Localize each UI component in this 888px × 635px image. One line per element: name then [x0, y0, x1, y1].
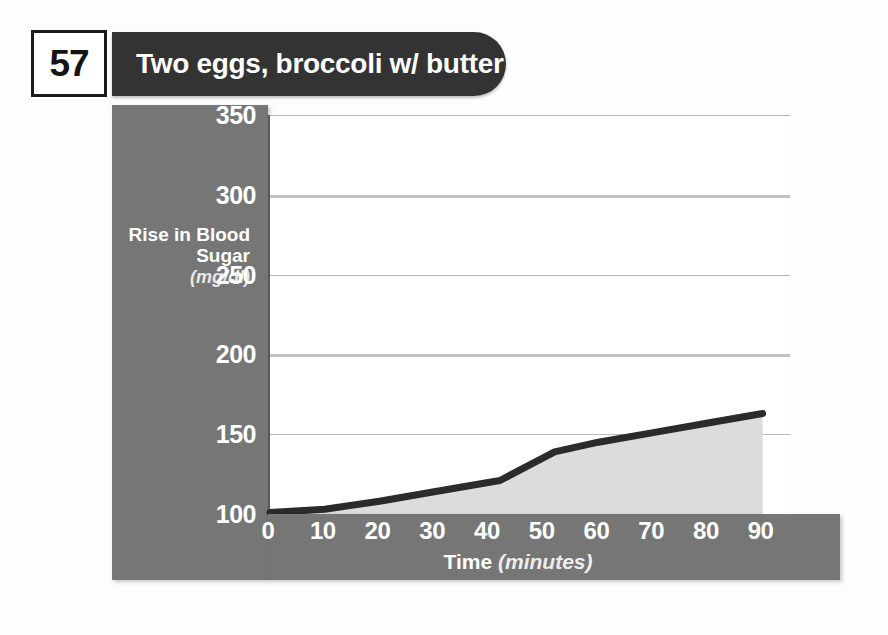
x-tick-label: 0 [262, 517, 275, 545]
x-tick-label: 10 [310, 517, 336, 545]
x-axis-title: Time (minutes) [268, 550, 768, 574]
chart-page: 57 Two eggs, broccoli w/ butter Rise in … [0, 0, 888, 635]
x-tick-label: 80 [693, 517, 719, 545]
x-tick-label: 90 [748, 517, 774, 545]
chart-header: 57 Two eggs, broccoli w/ butter [0, 0, 888, 105]
page-number-text: 57 [49, 45, 88, 82]
x-tick-label: 40 [474, 517, 500, 545]
plot-area [268, 115, 790, 514]
x-tick-label: 60 [584, 517, 610, 545]
title-banner: Two eggs, broccoli w/ butter [112, 32, 506, 96]
data-series-svg [270, 115, 790, 514]
y-tick-label: 250 [136, 260, 256, 289]
y-axis-panel: Rise in Blood Sugar (mg/dl) 100150200250… [112, 105, 268, 580]
x-axis-panel: 0102030405060708090 Time (minutes) [268, 514, 840, 580]
y-tick-label: 300 [136, 180, 256, 209]
x-axis-title-text: Time [444, 550, 493, 573]
x-axis-units: (minutes) [498, 550, 593, 573]
y-tick-label: 100 [136, 500, 256, 529]
x-tick-label: 50 [529, 517, 555, 545]
y-tick-label: 200 [136, 340, 256, 369]
x-tick-label: 20 [365, 517, 391, 545]
page-number-box: 57 [31, 30, 107, 97]
y-tick-label: 150 [136, 420, 256, 449]
x-tick-label: 30 [419, 517, 445, 545]
x-tick-label: 70 [638, 517, 664, 545]
y-tick-label: 350 [136, 101, 256, 130]
chart-container: Rise in Blood Sugar (mg/dl) 100150200250… [112, 105, 842, 585]
page-title: Two eggs, broccoli w/ butter [112, 48, 504, 80]
